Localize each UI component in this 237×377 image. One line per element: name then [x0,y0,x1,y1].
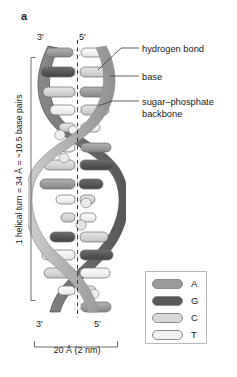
legend-swatch-t-icon [152,330,183,340]
legend-swatch-a-icon [152,279,183,289]
legend-row-a: A [152,277,204,290]
legend-label-g: G [191,296,198,306]
end-label-3prime-top: 3' [37,33,44,42]
callout-label-hydrogen-bond: hydrogen bond [142,44,204,56]
legend-swatch-c-icon [152,313,183,323]
callout-label-sugar-phosphate-line1: sugar–phosphate [142,97,214,107]
base-legend: A G C T [145,271,207,344]
legend-row-t: T [152,328,204,341]
end-label-5prime-bottom: 5' [94,320,101,329]
end-label-3prime-bottom: 3' [36,320,43,329]
helical-turn-caption: 1 helical turn = 34 Å = ~10.5 base pairs [15,44,24,294]
dna-helix-svg [28,40,126,318]
callout-label-sugar-phosphate-backbone: sugar–phosphate backbone [142,97,214,120]
legend-row-g: G [152,294,204,307]
helical-turn-bracket-svg [30,57,36,301]
legend-swatch-g-icon [152,296,183,306]
legend-row-c: C [152,311,204,324]
legend-label-a: A [191,279,197,289]
panel-letter: a [21,11,27,22]
end-label-5prime-top: 5' [79,33,86,42]
callout-label-sugar-phosphate-line2: backbone [142,109,182,119]
width-caption: 20 Å (2 nm) [22,346,132,355]
legend-label-t: T [191,330,197,340]
dna-helix-figure [28,40,126,318]
callout-label-base: base [142,72,162,84]
legend-label-c: C [191,313,198,323]
width-scale-bracket [34,334,118,341]
helical-turn-bracket [30,57,36,301]
